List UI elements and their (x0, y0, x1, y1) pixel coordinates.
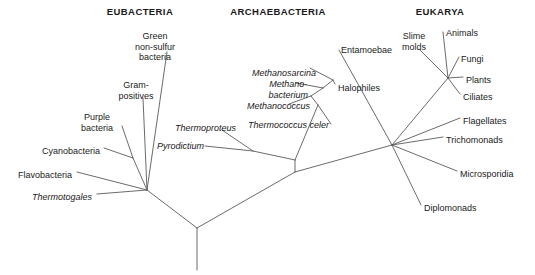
taxon-label-methanococcus: Methanococcus (247, 101, 310, 112)
domain-header-eubacteria: EUBACTERIA (107, 6, 173, 17)
branch-purple-cyano-node-to-purple (122, 126, 133, 158)
branch-purple-cyano-node-to-cyano (104, 148, 133, 158)
branch-eubacteria-node-to-flavobacteria (77, 172, 147, 190)
branch-eukarya-node-to-crown-node (392, 78, 448, 145)
taxon-label-microsporidia: Microsporidia (460, 169, 514, 180)
taxon-label-animals: Animals (446, 28, 478, 39)
taxon-label-gram-positives: Gram-positives (118, 80, 153, 101)
branch-euryarchaeota-stem-a (311, 96, 318, 105)
taxon-label-plants: Plants (466, 75, 491, 86)
branch-crown-node-to-slime-molds (420, 50, 448, 78)
branch-root-to-archaea-eukarya-node (197, 172, 295, 228)
taxon-label-trichomonads: Trichomonads (446, 135, 503, 146)
taxon-label-ciliates: Ciliates (463, 92, 493, 103)
branch-root-to-eubacteria-node (147, 190, 197, 228)
taxon-label-green-non-sulfur-bacteria: Greennon-sulfurbacteria (135, 31, 175, 63)
branch-crown-node-to-plants (448, 77, 463, 78)
taxon-label-thermotogales: Thermotogales (32, 192, 92, 203)
taxon-label-flagellates: Flagellates (463, 116, 507, 127)
branch-eubacteria-node-to-green-non-sulfur (147, 52, 167, 190)
taxon-label-entamoebae: Entamoebae (341, 45, 392, 56)
branch-eubacteria-node-to-purple-cyano-node (133, 158, 147, 190)
taxon-label-fungi: Fungi (461, 54, 484, 65)
taxon-label-methanobacterium: Methano-bacterium (268, 79, 308, 100)
taxon-label-purple-bacteria: Purplebacteria (81, 112, 113, 133)
branch-archaea-eukarya-node-to-eukarya-node (295, 145, 392, 172)
branch-euryarchaeota-stem-b (311, 88, 323, 96)
branch-crenarchaeota-node-to-pyrodictium (205, 146, 253, 151)
branch-eubacteria-node-to-gram-positives (143, 98, 147, 190)
branch-eukarya-node-to-entamoebae (339, 50, 392, 145)
taxon-label-slime-molds: Slimemolds (402, 31, 426, 52)
branch-archaea-node-to-crenarchaeota-node (253, 151, 295, 160)
taxon-label-diplomonads: Diplomonads (424, 203, 477, 214)
branch-crown-node-to-ciliates (448, 78, 460, 94)
domain-header-eukarya: EUKARYA (416, 6, 465, 17)
branch-eukarya-node-to-trichomonads (392, 137, 443, 145)
phylogenetic-tree-figure: EUBACTERIAARCHAEBACTERIAEUKARYA Greennon… (0, 0, 535, 275)
branch-eukarya-node-to-microsporidia (392, 145, 457, 171)
branch-eubacteria-node-to-thermotogales (97, 190, 147, 194)
branch-archaea-node-to-euryarchaeota-node (295, 105, 318, 160)
taxon-label-pyrodictium: Pyrodictium (157, 141, 204, 152)
taxon-label-halophiles: Halophiles (338, 83, 380, 94)
branch-crown-node-to-animals (443, 32, 448, 78)
branch-eukarya-node-to-diplomonads (392, 145, 421, 205)
branch-crown-node-to-fungi (448, 57, 459, 78)
domain-header-archaebacteria: ARCHAEBACTERIA (230, 6, 325, 17)
taxon-label-cyanobacteria: Cyanobacteria (42, 146, 100, 157)
taxon-label-flavobacteria: Flavobacteria (18, 170, 72, 181)
taxon-label-thermococcus-celer: Thermococcus celer (248, 120, 329, 131)
branch-euryarchaeota-stem-c (323, 80, 333, 88)
taxon-label-thermoproteus: Thermoproteus (175, 123, 236, 134)
branch-euryarchaeota-node-to-halophiles (333, 80, 335, 84)
taxon-label-methanosarcina: Methanosarcina (252, 68, 316, 79)
